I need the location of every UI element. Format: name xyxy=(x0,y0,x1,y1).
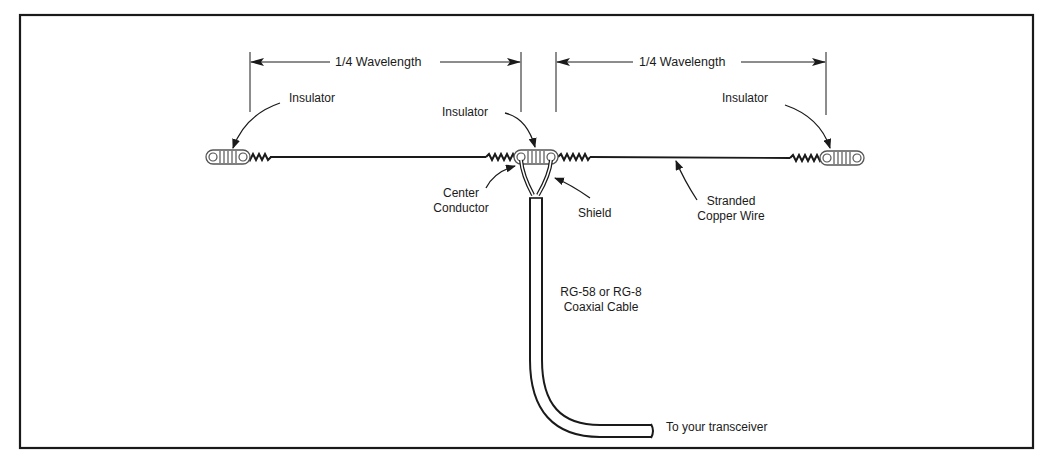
arrow-insulator-right xyxy=(785,105,830,148)
label-to-transceiver: To your transceiver xyxy=(666,420,767,435)
antenna-wire-right xyxy=(590,157,790,158)
label-coax-cable: RG-58 or RG-8 Coaxial Cable xyxy=(556,285,646,315)
label-stranded-copper-wire: Stranded Copper Wire xyxy=(690,194,772,224)
diagram-graphics xyxy=(0,0,1048,465)
arrow-shield xyxy=(555,178,590,198)
dipole-antenna-diagram: 1/4 Wavelength 1/4 Wavelength Insulator … xyxy=(0,0,1048,465)
label-center-conductor-line2: Conductor xyxy=(425,201,497,216)
label-insulator-left: Insulator xyxy=(289,91,335,106)
label-coax-line1: RG-58 or RG-8 xyxy=(556,285,646,300)
arrow-center-conductor xyxy=(486,166,515,188)
label-shield: Shield xyxy=(578,206,611,221)
dimension-label-right: 1/4 Wavelength xyxy=(635,55,729,69)
label-center-conductor: Center Conductor xyxy=(425,186,497,216)
arrow-insulator-left xyxy=(233,103,280,148)
label-stranded-line2: Copper Wire xyxy=(690,209,772,224)
coax-end xyxy=(651,424,653,438)
label-stranded-line1: Stranded xyxy=(690,194,772,209)
insulator-right xyxy=(820,151,864,165)
dimension-label-left: 1/4 Wavelength xyxy=(331,55,425,69)
insulator-left xyxy=(206,150,250,164)
label-center-conductor-line1: Center xyxy=(425,186,497,201)
label-coax-line2: Coaxial Cable xyxy=(556,300,646,315)
frame-border xyxy=(20,15,1033,448)
wrap-right-outer xyxy=(790,155,823,161)
arrow-insulator-center xyxy=(505,113,535,147)
shield-lead xyxy=(538,160,551,195)
label-insulator-right: Insulator xyxy=(722,91,768,106)
wrap-center-right xyxy=(558,154,590,160)
label-insulator-center: Insulator xyxy=(442,105,488,120)
center-conductor-lead xyxy=(521,160,533,195)
